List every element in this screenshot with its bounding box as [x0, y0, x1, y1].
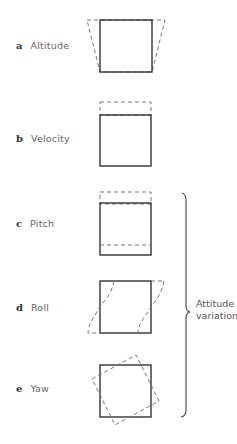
panel-d-label: dRoll — [16, 302, 49, 313]
panel-c-word: Pitch — [30, 218, 54, 229]
panel-e-word: Yaw — [30, 383, 49, 394]
panel-b-label: bVelocity — [16, 133, 70, 144]
panel-b-figure — [100, 102, 151, 166]
panel-c-label: cPitch — [16, 218, 54, 229]
panel-c-figure — [100, 192, 151, 255]
panel-e-figure — [92, 355, 159, 425]
panel-d-word: Roll — [31, 302, 49, 313]
brace-label: Attitude variations — [196, 298, 237, 322]
panel-a-label: aAltitude — [16, 40, 69, 51]
panel-e-letter: e — [16, 383, 22, 394]
panel-a-figure — [87, 20, 165, 72]
panel-a-letter: a — [16, 40, 22, 51]
panel-a-word: Altitude — [30, 40, 69, 51]
brace-label-line2: variations — [196, 310, 237, 322]
panel-d-figure — [88, 281, 164, 333]
panel-b-letter: b — [16, 133, 23, 144]
panel-d-letter: d — [16, 302, 23, 313]
attitude-brace — [181, 193, 190, 417]
panel-e-label: eYaw — [16, 383, 49, 394]
panel-b-word: Velocity — [31, 133, 70, 144]
brace-label-line1: Attitude — [196, 298, 237, 310]
panel-c-letter: c — [16, 218, 22, 229]
